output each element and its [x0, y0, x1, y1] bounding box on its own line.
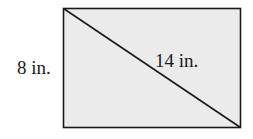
rectangle-diagram: 8 in. 14 in. — [0, 0, 253, 139]
diagonal-label: 14 in. — [155, 50, 198, 71]
side-label: 8 in. — [17, 57, 51, 78]
